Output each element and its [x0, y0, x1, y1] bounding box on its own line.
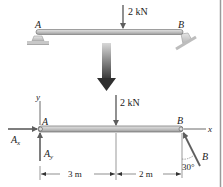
top-point-b-label: B	[178, 19, 184, 30]
fbd-point-b-label: B	[177, 115, 183, 126]
reaction-ax-label: Ax	[10, 134, 21, 147]
beam-diagram: 2 kN A B y x A B 2 kN Ax Ay B	[0, 0, 223, 187]
angle-label: 30°	[182, 162, 195, 172]
fbd-beam	[38, 126, 183, 132]
dim-right-label: 2 m	[139, 169, 153, 179]
top-beam-group: 2 kN A B	[27, 5, 196, 49]
dim-left-label: 3 m	[68, 169, 82, 179]
top-point-a-label: A	[34, 19, 42, 30]
pin-support-a-icon	[27, 36, 49, 45]
fbd-load-label: 2 kN	[120, 97, 140, 108]
x-axis-label: x	[207, 124, 212, 134]
reaction-b-label: B	[202, 151, 208, 162]
reaction-ay-label: Ay	[43, 148, 54, 161]
transition-arrow-icon	[97, 43, 116, 91]
top-load-label: 2 kN	[128, 6, 148, 17]
inclined-support-b-icon	[176, 33, 196, 49]
fbd-point-a-label: A	[41, 116, 49, 127]
y-axis-label: y	[35, 92, 40, 102]
fbd-group: y x A B 2 kN Ax Ay B 30° 3 m	[8, 92, 212, 180]
angle-arc	[182, 156, 193, 159]
pin-b-icon	[179, 127, 183, 131]
top-beam	[36, 30, 183, 35]
pin-a-icon	[39, 127, 43, 131]
